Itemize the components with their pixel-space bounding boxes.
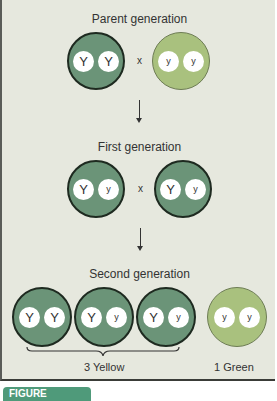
allele: Y	[143, 307, 164, 328]
yellow-count-label: 3 Yellow	[84, 361, 124, 373]
allele: y	[239, 307, 260, 328]
parent-generation-label: Parent generation	[2, 12, 277, 26]
down-arrow-icon	[139, 100, 140, 119]
green-count-label: 1 Green	[214, 361, 254, 373]
cross-symbol: x	[138, 183, 143, 194]
figure-tab: FIGURE	[3, 387, 91, 401]
parent-yellow-seed: Y Y	[67, 32, 125, 90]
allele: y	[185, 179, 206, 200]
allele: Y	[19, 307, 40, 328]
allele: y	[106, 307, 127, 328]
first-generation-label: First generation	[2, 140, 277, 154]
allele: y	[158, 51, 179, 72]
down-arrow-icon	[140, 228, 141, 247]
diagram-panel: Parent generation Y Y x y y First genera…	[0, 0, 275, 381]
second-generation-label: Second generation	[2, 267, 277, 281]
second-gen-seed-4: y y	[207, 287, 267, 347]
allele: y	[98, 179, 119, 200]
second-gen-seed-2: Y y	[74, 287, 134, 347]
first-gen-seed-1: Y y	[67, 160, 125, 218]
second-gen-seed-1: Y Y	[12, 287, 72, 347]
second-gen-seed-3: Y y	[136, 287, 196, 347]
first-gen-seed-2: Y y	[154, 160, 212, 218]
allele: Y	[44, 307, 65, 328]
cross-symbol: x	[137, 55, 142, 66]
allele: y	[214, 307, 235, 328]
allele: y	[183, 51, 204, 72]
allele: Y	[98, 51, 119, 72]
parent-green-seed: y y	[152, 32, 210, 90]
allele: Y	[160, 179, 181, 200]
allele: y	[168, 307, 189, 328]
allele: Y	[73, 179, 94, 200]
allele: Y	[81, 307, 102, 328]
allele: Y	[73, 51, 94, 72]
brace-icon	[26, 346, 180, 358]
